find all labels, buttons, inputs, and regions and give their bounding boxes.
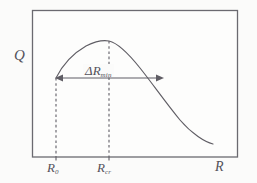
x-tick-subscript-r-zero: 0 [55, 168, 59, 176]
x-axis-label-text: R [215, 159, 224, 174]
plot-canvas [0, 0, 257, 183]
span-annotation-symbol: ΔR [85, 63, 101, 78]
plot-frame [33, 11, 238, 158]
span-annotation-label: ΔRmin [83, 64, 114, 77]
figure-container: Q R R0 Rcr ΔRmin [0, 0, 257, 183]
x-tick-label-r-zero: R0 [47, 161, 59, 174]
x-tick-symbol-r-zero: R [47, 160, 55, 175]
x-tick-subscript-r-critical: cr [105, 168, 111, 176]
x-tick-symbol-r-critical: R [97, 160, 105, 175]
y-axis-label: Q [14, 48, 25, 63]
x-tick-label-r-critical: Rcr [97, 161, 111, 174]
span-annotation-subscript: min [101, 71, 112, 79]
x-axis-label: R [215, 160, 224, 174]
y-axis-label-text: Q [14, 47, 25, 63]
